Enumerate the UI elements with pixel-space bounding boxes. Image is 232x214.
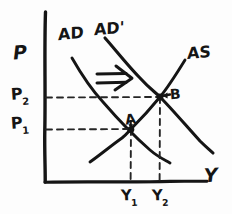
tick-label-y1-subscript: 1 bbox=[131, 197, 138, 208]
tick-label-p2-subscript: 2 bbox=[22, 96, 30, 107]
point-label-a: A bbox=[124, 111, 137, 126]
axis-label-output: Y bbox=[204, 166, 219, 186]
axis-label-price: P bbox=[12, 43, 27, 63]
point-label-b: B bbox=[170, 87, 182, 102]
tick-label-p1-subscript: 1 bbox=[22, 125, 30, 136]
ad-as-diagram: P Y AD AD' AS P2 P1 Y1 Y2 A B bbox=[0, 0, 232, 214]
curve-label-ad: AD bbox=[58, 25, 84, 44]
tick-label-y2-subscript: 2 bbox=[162, 197, 169, 208]
curve-label-as: AS bbox=[187, 44, 211, 62]
tick-label-p1: P1 bbox=[10, 114, 30, 134]
tick-label-p2-base: P bbox=[10, 84, 23, 104]
curve-label-ad-shifted: AD' bbox=[94, 20, 125, 39]
guide-line-p2 bbox=[46, 97, 160, 98]
tick-label-y2: Y2 bbox=[152, 188, 170, 206]
guide-line-p1 bbox=[46, 129, 131, 130]
shift-arrow-icon bbox=[97, 66, 132, 90]
tick-label-p1-base: P bbox=[10, 113, 23, 133]
point-b-marker bbox=[157, 94, 164, 101]
horizontal-axis-y bbox=[45, 181, 207, 182]
tick-label-p2: P2 bbox=[10, 85, 30, 105]
tick-label-y1: Y1 bbox=[121, 188, 139, 206]
guide-lines-group bbox=[46, 97, 160, 181]
